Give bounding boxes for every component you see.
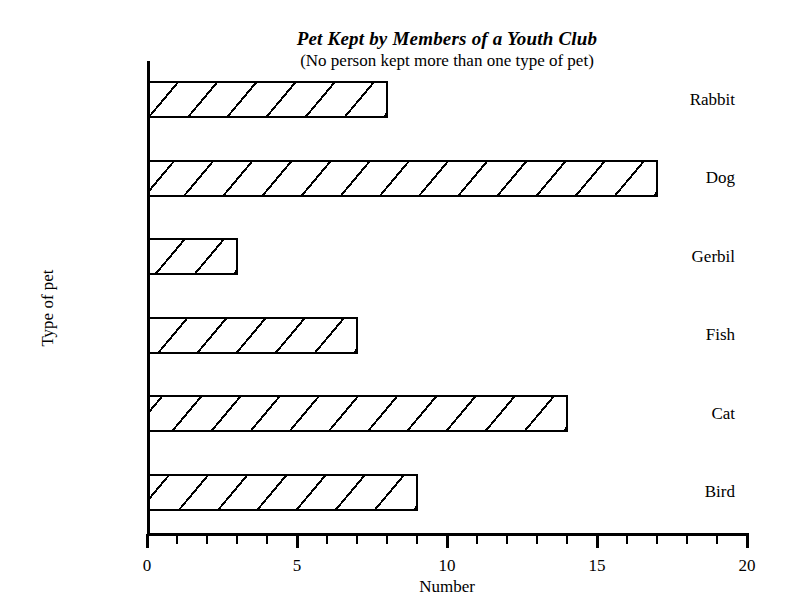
- x-tick-minor-19: [716, 535, 718, 544]
- bar-fish: [148, 317, 358, 354]
- x-tick-minor-8: [386, 535, 388, 544]
- x-tick-major-10: [446, 534, 449, 548]
- bar-dog: [148, 160, 658, 197]
- x-axis-title: Number: [147, 577, 747, 597]
- plot-area: RabbitDogGerbilFishCatBird 05101520: [147, 61, 747, 536]
- x-tick-label-15: 15: [577, 556, 617, 576]
- x-tick-minor-17: [656, 535, 658, 544]
- x-tick-minor-16: [626, 535, 628, 544]
- bar-cat: [148, 395, 568, 432]
- y-tick-label-gerbil: Gerbil: [615, 248, 735, 265]
- y-axis-line: [147, 61, 150, 536]
- y-tick-label-fish: Fish: [615, 326, 735, 343]
- x-tick-major-20: [746, 534, 749, 548]
- y-tick-label-dog: Dog: [615, 169, 735, 186]
- x-tick-minor-14: [566, 535, 568, 544]
- x-tick-label-10: 10: [427, 556, 467, 576]
- y-tick-label-rabbit: Rabbit: [615, 91, 735, 108]
- x-tick-label-0: 0: [127, 556, 167, 576]
- x-tick-minor-1: [176, 535, 178, 544]
- bar-rabbit: [148, 81, 388, 118]
- x-tick-major-15: [596, 534, 599, 548]
- bar-bird: [148, 474, 418, 511]
- x-tick-minor-7: [356, 535, 358, 544]
- bar-gerbil: [148, 238, 238, 275]
- chart-title: Pet Kept by Members of a Youth Club: [147, 28, 747, 50]
- x-tick-minor-12: [506, 535, 508, 544]
- y-tick-label-cat: Cat: [615, 405, 735, 422]
- x-tick-minor-6: [326, 535, 328, 544]
- x-tick-minor-2: [206, 535, 208, 544]
- x-tick-label-20: 20: [727, 556, 767, 576]
- x-tick-minor-9: [416, 535, 418, 544]
- y-tick-label-bird: Bird: [615, 483, 735, 500]
- x-tick-minor-18: [686, 535, 688, 544]
- bar-chart: Pet Kept by Members of a Youth Club (No …: [0, 0, 812, 614]
- x-tick-minor-4: [266, 535, 268, 544]
- x-tick-minor-11: [476, 535, 478, 544]
- x-tick-minor-13: [536, 535, 538, 544]
- x-tick-minor-3: [236, 535, 238, 544]
- x-tick-major-0: [146, 534, 149, 548]
- x-tick-major-5: [296, 534, 299, 548]
- x-tick-label-5: 5: [277, 556, 317, 576]
- y-axis-title: Type of pet: [38, 238, 58, 378]
